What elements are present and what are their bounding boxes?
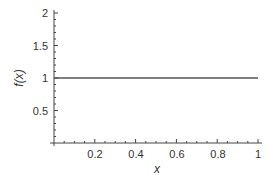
y-tick-label: 2 — [42, 7, 48, 19]
x-tick-label: 0.4 — [128, 148, 143, 160]
y-tick-label: 1.5 — [33, 40, 48, 52]
x-tick-label: 0.2 — [87, 148, 102, 160]
x-axis-label: x — [153, 162, 161, 176]
chart-svg: 2 1.5 1 0.5 0.2 0.4 0.6 0.8 1 x f(x) — [0, 0, 276, 177]
y-tick-label: 1 — [42, 72, 48, 84]
x-tick-label: 1 — [255, 148, 261, 160]
y-tick-label: 0.5 — [33, 105, 48, 117]
x-tick-label: 0.8 — [210, 148, 225, 160]
x-minor-ticks — [64, 139, 258, 143]
chart: 2 1.5 1 0.5 0.2 0.4 0.6 0.8 1 x f(x) — [0, 0, 276, 177]
x-tick-label: 0.6 — [169, 148, 184, 160]
y-minor-ticks — [54, 13, 58, 137]
y-axis-label: f(x) — [12, 69, 26, 86]
